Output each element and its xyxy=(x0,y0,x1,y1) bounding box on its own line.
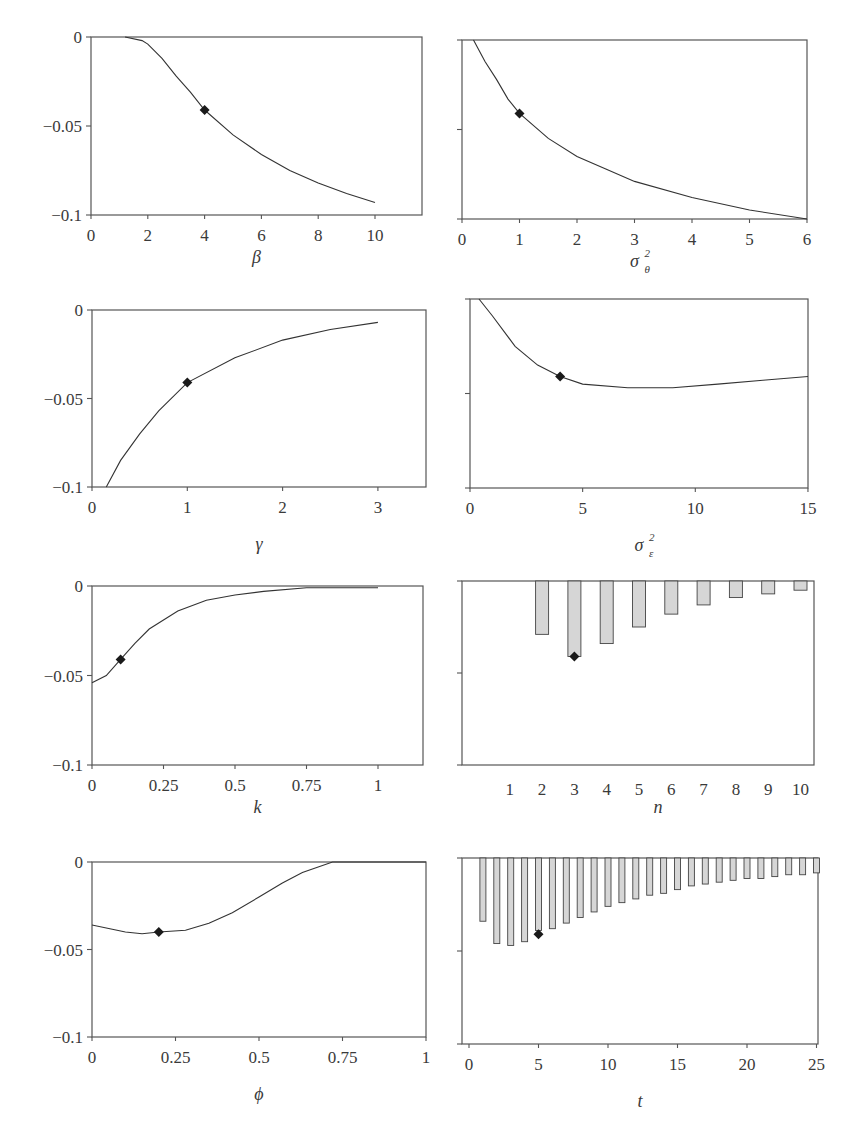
data-bar xyxy=(688,858,694,886)
x-tick-label: 2 xyxy=(278,498,287,517)
plot-frame xyxy=(462,40,807,219)
data-bar xyxy=(600,581,613,644)
x-axis-label: γ xyxy=(255,534,263,554)
x-tick-label: 1 xyxy=(515,230,524,249)
y-tick-label: −0.1 xyxy=(52,478,83,497)
y-tick-label: 0 xyxy=(75,853,84,872)
x-tick-label: 6 xyxy=(257,226,266,245)
data-bar xyxy=(814,858,820,873)
x-tick-label: 10 xyxy=(792,780,809,799)
x-axis-label: k xyxy=(254,797,263,817)
data-bar xyxy=(758,858,764,878)
x-axis-label-superscript: 2 xyxy=(645,247,651,259)
y-tick-label: 0 xyxy=(74,28,83,47)
x-tick-label: 1 xyxy=(374,776,383,795)
data-bar xyxy=(665,581,678,614)
data-bar xyxy=(647,858,653,895)
baseline-marker-icon xyxy=(555,371,565,381)
x-tick-label: 0.75 xyxy=(292,776,322,795)
panel-k: 0−0.05−0.100.250.50.751k xyxy=(44,577,423,817)
x-tick-label: 10 xyxy=(367,226,384,245)
x-tick-label: 10 xyxy=(600,1055,617,1074)
x-tick-label: 10 xyxy=(687,499,704,518)
x-tick-label: 0.5 xyxy=(224,776,245,795)
x-axis-label-subscript: ε xyxy=(649,547,654,559)
data-bar xyxy=(800,858,806,875)
plot-frame xyxy=(91,37,422,215)
panel-beta: 0−0.05−0.10246810β xyxy=(43,28,422,267)
x-tick-label: 0 xyxy=(466,499,475,518)
data-bar xyxy=(536,581,549,634)
plot-frame xyxy=(92,310,426,487)
x-tick-label: 2 xyxy=(538,780,547,799)
x-tick-label: 2 xyxy=(144,226,153,245)
data-bar xyxy=(549,858,555,929)
data-bar xyxy=(568,581,581,656)
data-bar xyxy=(633,858,639,899)
x-tick-label: 6 xyxy=(667,780,676,799)
panel-t: 0510152025t xyxy=(457,858,825,1111)
x-tick-label: 0 xyxy=(458,230,467,249)
x-axis-label: σ xyxy=(630,251,640,271)
x-tick-label: 4 xyxy=(200,226,209,245)
y-tick-label: −0.1 xyxy=(52,1028,83,1047)
x-tick-label: 0.25 xyxy=(149,776,179,795)
data-curve xyxy=(92,862,426,934)
data-bar xyxy=(577,858,583,918)
x-tick-label: 2 xyxy=(573,230,582,249)
x-axis-label-superscript: 2 xyxy=(649,531,655,543)
data-bar xyxy=(605,858,611,906)
data-bar xyxy=(563,858,569,923)
x-tick-label: 8 xyxy=(732,780,741,799)
x-tick-label: 6 xyxy=(803,230,812,249)
data-bar xyxy=(619,858,625,903)
y-tick-label: −0.1 xyxy=(51,206,82,225)
y-tick-label: 0 xyxy=(75,577,84,596)
x-tick-label: 4 xyxy=(688,230,697,249)
x-tick-label: 25 xyxy=(808,1055,825,1074)
data-bar xyxy=(786,858,792,875)
x-tick-label: 1 xyxy=(422,1048,431,1067)
x-tick-label: 0 xyxy=(465,1055,474,1074)
x-tick-label: 1 xyxy=(183,498,192,517)
panel-sigma_epsilon: 051015σ2ε xyxy=(465,299,816,559)
x-tick-label: 9 xyxy=(764,780,773,799)
data-bar xyxy=(661,858,667,893)
sensitivity-figure: 0−0.05−0.10246810β0123456σ2θ0−0.05−0.101… xyxy=(0,0,841,1124)
x-axis-label: n xyxy=(654,797,663,817)
plot-frame xyxy=(470,299,808,488)
data-bar xyxy=(702,858,708,884)
plot-frame xyxy=(462,858,818,1044)
data-bar xyxy=(794,581,807,590)
data-bar xyxy=(508,858,514,945)
x-tick-label: 4 xyxy=(602,780,611,799)
x-tick-label: 7 xyxy=(699,780,708,799)
data-bar xyxy=(716,858,722,882)
y-tick-label: −0.05 xyxy=(44,667,83,686)
x-tick-label: 8 xyxy=(314,226,323,245)
x-axis-label: t xyxy=(637,1091,643,1111)
x-tick-label: 5 xyxy=(534,1055,543,1074)
x-tick-label: 15 xyxy=(669,1055,686,1074)
x-tick-label: 5 xyxy=(635,780,644,799)
data-bar xyxy=(762,581,775,594)
plot-frame xyxy=(92,586,423,765)
x-tick-label: 3 xyxy=(630,230,639,249)
data-curve xyxy=(125,37,375,203)
data-curve xyxy=(479,299,808,388)
data-bar xyxy=(480,858,486,921)
x-tick-label: 0.25 xyxy=(161,1048,191,1067)
x-axis-label: σ xyxy=(635,535,645,555)
data-bar xyxy=(633,581,646,627)
data-bar xyxy=(494,858,500,944)
data-bar xyxy=(729,581,742,598)
x-tick-label: 0.75 xyxy=(328,1048,358,1067)
y-tick-label: −0.1 xyxy=(52,756,83,775)
panel-n: 12345678910n xyxy=(457,581,814,817)
x-tick-label: 1 xyxy=(506,780,515,799)
x-axis-label: β xyxy=(251,247,261,267)
x-tick-label: 3 xyxy=(570,780,579,799)
x-tick-label: 0 xyxy=(88,1048,97,1067)
data-curve xyxy=(474,40,808,219)
data-bar xyxy=(522,858,528,942)
